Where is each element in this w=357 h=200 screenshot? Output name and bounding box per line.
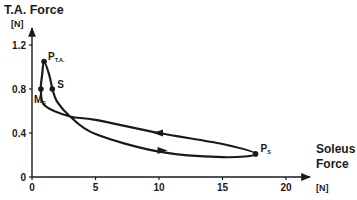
point-label: S (57, 79, 64, 90)
x-tick-label: 5 (93, 182, 99, 193)
annotated-points: PT.A.SMSPS (34, 51, 271, 157)
data-point-marker (38, 86, 44, 92)
data-point-marker (50, 86, 56, 92)
point-label: MS (34, 94, 46, 106)
y-tick-label: 0.8 (12, 84, 26, 95)
x-tick-label: 10 (153, 182, 165, 193)
force-loop-chart: 00.40.81.2 05101520 T.A. Force [N] Soleu… (0, 0, 357, 200)
force-loop-curve (41, 62, 256, 158)
x-axis-unit: [N] (316, 183, 329, 193)
data-point-marker (253, 151, 259, 157)
x-ticks: 05101520 (29, 177, 292, 193)
y-axis-unit: [N] (11, 19, 24, 29)
y-ticks: 00.40.81.2 (12, 40, 32, 183)
x-tick-label: 20 (280, 182, 292, 193)
y-tick-label: 0 (20, 172, 26, 183)
y-tick-label: 0.4 (12, 128, 26, 139)
x-tick-label: 15 (217, 182, 229, 193)
arrow-left-icon (153, 130, 163, 137)
x-axis-title-line2: Force (316, 157, 349, 171)
x-axis-title-line1: Soleus (316, 142, 356, 156)
data-point-marker (41, 59, 47, 65)
point-label: PT.A. (48, 51, 65, 63)
x-tick-label: 0 (29, 182, 35, 193)
y-tick-label: 1.2 (12, 40, 26, 51)
y-axis-title: T.A. Force (4, 3, 64, 17)
point-label: PS (261, 143, 272, 155)
